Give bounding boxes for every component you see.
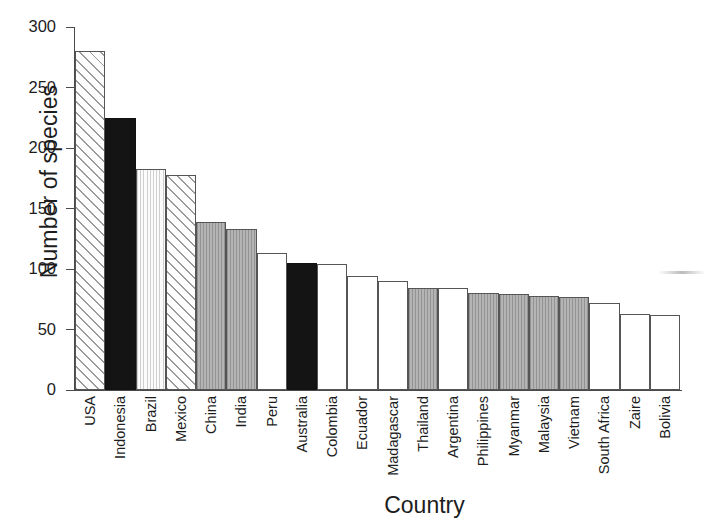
x-tick-label: Ecuador	[354, 396, 370, 450]
x-tick-label: India	[233, 396, 249, 427]
bar-brazil	[136, 169, 166, 390]
x-tick-label-slot: Indonesia	[105, 396, 135, 492]
x-tick-label: Argentina	[445, 396, 461, 458]
bar-malaysia	[529, 296, 559, 390]
y-tick-label: 0	[8, 380, 56, 399]
bar-zaire	[620, 314, 650, 390]
y-tick-mark	[66, 329, 75, 330]
y-tick-label: 250	[8, 78, 56, 97]
x-tick-label-slot: South Africa	[589, 396, 619, 492]
bar-bolivia	[650, 315, 680, 390]
x-tick-label: Thailand	[415, 396, 431, 452]
x-tick-label: Zaire	[627, 396, 643, 429]
x-axis-title: Country	[0, 492, 713, 519]
x-tick-label: Indonesia	[112, 396, 128, 459]
bar-mexico	[166, 175, 196, 390]
y-tick-mark	[66, 27, 75, 28]
x-tick-label-slot: Vietnam	[559, 396, 589, 492]
bar-thailand	[408, 288, 438, 390]
x-tick-label-slot: Philippines	[468, 396, 498, 492]
x-tick-label-slot: India	[226, 396, 256, 492]
x-tick-label: Australia	[294, 396, 310, 452]
y-tick-mark	[66, 208, 75, 209]
x-tick-label: Peru	[264, 396, 280, 427]
bar-china	[196, 222, 226, 390]
x-tick-label: Mexico	[173, 396, 189, 442]
bar-indonesia	[105, 118, 135, 390]
x-tick-label-slot: Malaysia	[529, 396, 559, 492]
y-tick-label: 100	[8, 259, 56, 278]
y-tick-label: 50	[8, 320, 56, 339]
plot-area	[75, 27, 680, 390]
x-tick-label-slot: Australia	[287, 396, 317, 492]
y-tick-label: 200	[8, 138, 56, 157]
x-tick-label-slot: Myanmar	[499, 396, 529, 492]
x-tick-label-slot: Mexico	[166, 396, 196, 492]
bar-vietnam	[559, 297, 589, 390]
x-axis-title-text: Country	[384, 492, 465, 518]
x-tick-label: Bolivia	[657, 396, 673, 439]
x-tick-label: China	[203, 396, 219, 434]
bar-australia	[287, 263, 317, 390]
x-tick-label-slot: Brazil	[136, 396, 166, 492]
x-tick-label-slot: USA	[75, 396, 105, 492]
y-tick-label: 300	[8, 17, 56, 36]
x-tick-label: Myanmar	[506, 396, 522, 456]
scan-artifact	[658, 271, 706, 274]
bar-india	[226, 229, 256, 390]
bar-madagascar	[378, 281, 408, 390]
x-tick-label: Colombia	[324, 396, 340, 457]
x-axis-line	[74, 390, 682, 391]
y-tick-mark	[66, 269, 75, 270]
x-tick-label-slot: Colombia	[317, 396, 347, 492]
x-tick-label-slot: Thailand	[408, 396, 438, 492]
x-tick-label-slot: China	[196, 396, 226, 492]
bar-philippines	[468, 293, 498, 390]
bar-ecuador	[347, 276, 377, 390]
x-tick-label: Vietnam	[566, 396, 582, 449]
y-tick-mark	[66, 87, 75, 88]
x-tick-label-slot: Zaire	[620, 396, 650, 492]
bar-usa	[75, 51, 105, 390]
x-tick-label-slot: Argentina	[438, 396, 468, 492]
x-tick-label-slot: Madagascar	[378, 396, 408, 492]
x-tick-label-slot: Bolivia	[650, 396, 680, 492]
bar-south-africa	[589, 303, 619, 390]
x-tick-label: Madagascar	[385, 396, 401, 476]
y-tick-mark	[66, 148, 75, 149]
bar-myanmar	[499, 294, 529, 390]
x-tick-label: Philippines	[475, 396, 491, 466]
x-tick-label-slot: Ecuador	[347, 396, 377, 492]
bar-colombia	[317, 264, 347, 390]
x-tick-label-slot: Peru	[257, 396, 287, 492]
x-tick-label: South Africa	[596, 396, 612, 474]
bar-peru	[257, 253, 287, 390]
x-tick-label: Brazil	[143, 396, 159, 432]
bar-argentina	[438, 288, 468, 390]
x-tick-label: USA	[82, 396, 98, 426]
bar-chart: Number of species 050100150200250300 USA…	[0, 0, 713, 526]
y-tick-label: 150	[8, 199, 56, 218]
x-tick-label: Malaysia	[536, 396, 552, 453]
